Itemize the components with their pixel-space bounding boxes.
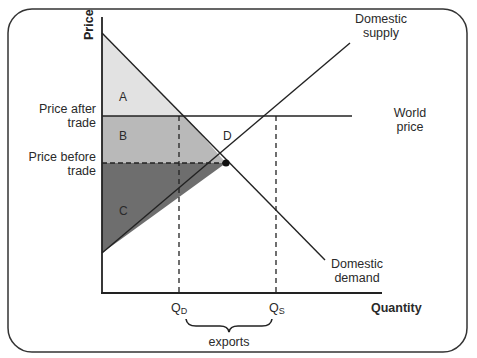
price-after-trade-line1: Price after (12, 102, 96, 116)
area-d-label: D (223, 129, 232, 143)
price-before-trade-label: Price before trade (8, 150, 96, 178)
exports-label: exports (199, 335, 259, 349)
domestic-demand-line1: Domestic (322, 257, 392, 271)
qs-label: QS (269, 301, 285, 318)
x-axis-label: Quantity (371, 301, 422, 315)
area-b-label: B (119, 129, 127, 143)
domestic-supply-line2: supply (346, 26, 416, 40)
price-before-trade-line2: trade (8, 164, 96, 178)
qs-main: Q (269, 301, 279, 315)
qd-label: QD (171, 301, 187, 318)
area-a-label: A (119, 90, 127, 104)
y-axis-label: Price (82, 9, 96, 40)
equilibrium-point (222, 159, 229, 166)
area-c-label: C (119, 204, 128, 218)
price-after-trade-line2: trade (12, 116, 96, 130)
price-before-trade-line1: Price before (8, 150, 96, 164)
domestic-supply-label: Domestic supply (346, 12, 416, 40)
domestic-supply-line1: Domestic (346, 12, 416, 26)
qd-main: Q (171, 301, 181, 315)
qd-subscript: D (181, 306, 188, 316)
domestic-demand-line2: demand (322, 271, 392, 285)
domestic-demand-label: Domestic demand (322, 257, 392, 285)
world-price-line2: price (385, 120, 435, 134)
exports-brace (186, 319, 272, 332)
qs-subscript: S (279, 306, 285, 316)
price-after-trade-label: Price after trade (12, 102, 96, 130)
world-price-label: World price (385, 106, 435, 134)
world-price-line1: World (385, 106, 435, 120)
